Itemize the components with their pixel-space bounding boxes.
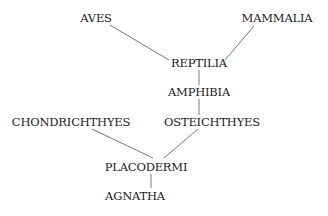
tree-edges	[0, 0, 328, 216]
node-reptilia: REPTILIA	[171, 56, 227, 70]
edge-aves-reptilia	[110, 25, 169, 60]
node-amphibia: AMPHIBIA	[168, 85, 230, 99]
node-chondrichthyes: CHONDRICHTHYES	[12, 115, 130, 129]
node-osteichthyes: OSTEICHTHYES	[164, 115, 260, 129]
node-placodermi: PLACODERMI	[105, 160, 188, 174]
node-mammalia: MAMMALIA	[242, 11, 313, 25]
edge-osteichthyes-placodermi	[164, 129, 198, 158]
node-agnatha: AGNATHA	[105, 189, 165, 203]
edge-chondrichthyes-placodermi	[92, 129, 153, 158]
node-aves: AVES	[80, 11, 112, 25]
edge-mammalia-reptilia	[225, 26, 254, 60]
